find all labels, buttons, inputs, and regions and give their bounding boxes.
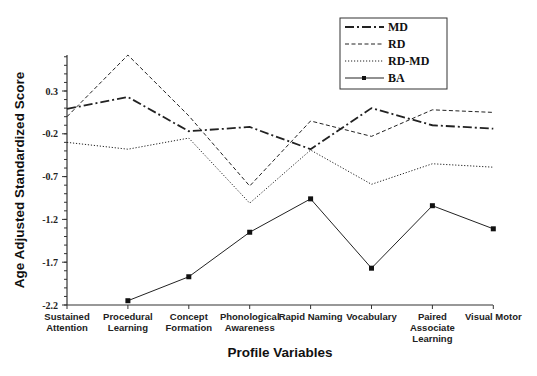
y-tick-label: -0.2	[42, 128, 58, 139]
ba-marker	[186, 274, 191, 279]
x-tick-label: Rapid Naming	[279, 311, 343, 322]
ba-marker	[247, 230, 252, 235]
ba-marker	[125, 298, 130, 303]
legend-label-rd-md: RD-MD	[388, 54, 430, 68]
x-tick-label: PhonologicalAwareness	[220, 311, 280, 333]
y-tick-label: -1.2	[42, 214, 58, 225]
y-tick-label: -2.2	[42, 300, 58, 311]
axes: 0.3-0.2-0.7-1.2-1.7-2.2SustainedAttentio…	[42, 55, 522, 344]
series-md-line	[67, 97, 493, 149]
ba-marker	[369, 266, 374, 271]
y-tick-label: -1.7	[42, 257, 58, 268]
x-axis-title: Profile Variables	[227, 345, 332, 360]
x-tick-label: PairedAssociateLearning	[410, 311, 455, 344]
legend-label-rd: RD	[388, 37, 406, 51]
series-rd-md-line	[67, 138, 493, 203]
legend-label-md: MD	[388, 20, 408, 34]
line-chart: 0.3-0.2-0.7-1.2-1.7-2.2SustainedAttentio…	[0, 0, 537, 376]
series-lines	[67, 55, 496, 303]
y-axis-title: Age Adjusted Standardized Score	[12, 71, 27, 288]
x-tick-label: Visual Motor	[465, 311, 522, 322]
legend-marker	[362, 76, 366, 80]
x-tick-label: ProceduralLearning	[103, 311, 153, 333]
x-tick-label: SustainedAttention	[44, 311, 90, 333]
ba-marker	[308, 196, 313, 201]
ba-marker	[491, 226, 496, 231]
legend: MDRDRD-MDBA	[340, 18, 447, 89]
y-tick-label: 0.3	[46, 86, 59, 97]
ba-marker	[430, 203, 435, 208]
y-tick-label: -0.7	[42, 171, 58, 182]
series-ba-line	[128, 199, 493, 301]
x-tick-label: Vocabulary	[346, 311, 397, 322]
legend-label-ba: BA	[388, 71, 405, 85]
x-tick-label: ConceptFormation	[166, 311, 213, 333]
